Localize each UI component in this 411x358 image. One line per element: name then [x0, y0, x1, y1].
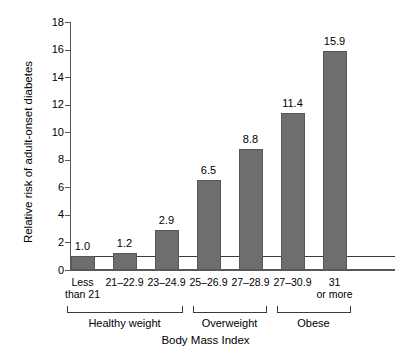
x-category-label-line: or more [303, 288, 367, 300]
x-category-label: 31or more [303, 276, 367, 300]
x-category-label-line: than 21 [51, 288, 115, 300]
y-tick-mark [65, 187, 70, 188]
x-axis-title: Body Mass Index [0, 334, 411, 346]
group-label: Obese [237, 317, 391, 330]
bar [71, 256, 95, 270]
y-tick-label: 8 [40, 154, 64, 165]
y-tick-label: 4 [40, 209, 64, 220]
y-tick-mark [65, 215, 70, 216]
y-axis-line [70, 22, 71, 270]
y-tick-label: 6 [40, 182, 64, 193]
y-axis-title: Relative risk of adult-onset diabetes [18, 2, 38, 302]
y-tick-label: 16 [40, 44, 64, 55]
bar-value-label: 1.2 [100, 238, 150, 249]
group-bracket [277, 306, 351, 313]
bar [155, 230, 179, 270]
y-axis-tick-labels: 024681012141618 [40, 22, 64, 270]
y-tick-mark [65, 132, 70, 133]
bar-value-label: 15.9 [310, 36, 360, 47]
y-tick-mark [65, 242, 70, 243]
y-tick-label: 0 [40, 265, 64, 276]
bar [113, 253, 137, 270]
y-tick-label: 18 [40, 17, 64, 28]
y-tick-label: 14 [40, 72, 64, 83]
bar-value-label: 6.5 [184, 165, 234, 176]
y-tick-mark [65, 50, 70, 51]
bar-value-label: 8.8 [226, 134, 276, 145]
bar [197, 180, 221, 270]
y-tick-mark [65, 22, 70, 23]
group-bracket [193, 306, 267, 313]
y-tick-mark [65, 270, 70, 271]
bar-value-label: 2.9 [142, 215, 192, 226]
bar-value-label: 11.4 [268, 98, 318, 109]
bar [281, 113, 305, 270]
y-tick-mark [65, 160, 70, 161]
bar [323, 51, 347, 270]
y-tick-label: 12 [40, 99, 64, 110]
group-bracket [67, 306, 183, 313]
bmi-diabetes-risk-chart: Relative risk of adult-onset diabetes 02… [0, 0, 411, 358]
bar [239, 149, 263, 270]
x-category-label-line: 31 [303, 276, 367, 288]
plot-area: 1.01.22.96.58.811.415.9 [70, 22, 395, 270]
y-tick-mark [65, 77, 70, 78]
y-tick-label: 10 [40, 127, 64, 138]
y-tick-mark [65, 105, 70, 106]
